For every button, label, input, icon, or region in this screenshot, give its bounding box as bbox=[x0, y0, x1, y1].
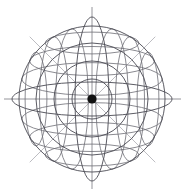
sphere-figure-container: Wireframe sphere with polar and equatori… bbox=[0, 0, 187, 193]
wireframe-sphere-svg: Wireframe sphere with polar and equatori… bbox=[0, 0, 187, 193]
center-point-dot bbox=[87, 94, 96, 103]
